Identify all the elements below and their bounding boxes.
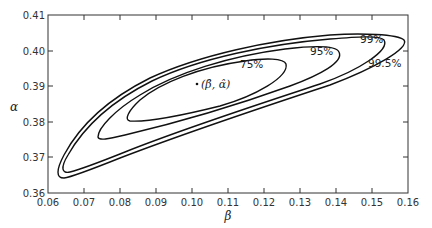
y-axis-label: α <box>10 100 18 114</box>
x-tick-label: 0.12 <box>253 197 275 208</box>
x-tick-label: 0.11 <box>217 197 239 208</box>
x-tick-label: 0.08 <box>109 197 131 208</box>
confidence-contours <box>58 34 405 178</box>
point-estimate-marker <box>196 83 199 86</box>
x-tick-label: 0.10 <box>181 197 203 208</box>
y-tick-label: 0.39 <box>23 81 45 92</box>
y-tick-label: 0.40 <box>23 46 45 57</box>
y-tick-label: 0.41 <box>23 10 45 21</box>
point-estimate-label: (β̂, α̂) <box>201 78 230 91</box>
y-tick-labels: 0.41 0.40 0.39 0.38 0.37 0.36 <box>23 10 45 199</box>
y-tick-label: 0.37 <box>23 152 45 163</box>
x-tick-labels: 0.06 0.07 0.08 0.09 0.10 0.11 0.12 0.13 … <box>37 197 419 208</box>
x-tick-label: 0.15 <box>361 197 383 208</box>
x-tick-label: 0.13 <box>289 197 311 208</box>
x-tick-label: 0.09 <box>145 197 167 208</box>
y-tick-label: 0.36 <box>23 188 45 199</box>
contour-chart: 0.06 0.07 0.08 0.09 0.10 0.11 0.12 0.13 … <box>0 0 432 228</box>
x-tick-label: 0.16 <box>397 197 419 208</box>
contour-label-99: 99% <box>360 33 383 45</box>
contour-95 <box>98 47 340 139</box>
y-tick-label: 0.38 <box>23 117 45 128</box>
contour-label-75: 75% <box>240 58 263 70</box>
contour-label-99-5: 99.5% <box>368 57 401 69</box>
x-tick-label: 0.14 <box>325 197 347 208</box>
x-tick-label: 0.07 <box>73 197 95 208</box>
contour-label-95: 95% <box>310 45 333 57</box>
x-axis-label: β <box>224 209 232 223</box>
